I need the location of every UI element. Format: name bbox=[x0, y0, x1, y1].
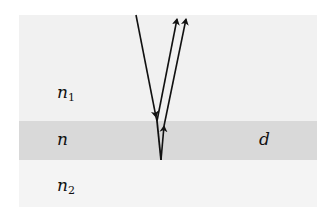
incident-ray bbox=[136, 15, 156, 117]
refracted-ray-in-film bbox=[157, 121, 161, 160]
reflected-ray-top-surface bbox=[157, 19, 177, 121]
reflected-ray-in-film bbox=[161, 126, 164, 160]
thin-film-diagram: n1 n n2 d bbox=[0, 0, 333, 210]
rays-layer bbox=[0, 0, 333, 210]
